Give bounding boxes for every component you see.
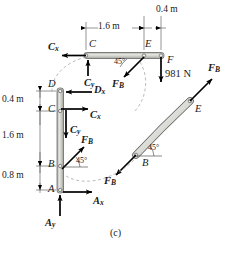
- free-body-diagram-figure: 1.6 m 0.4 m 0.4 m 1.6 m 0.8 m C E F D C …: [0, 0, 237, 253]
- force-label-Cy-vertical: Cy: [70, 125, 80, 136]
- dimension-label-1p6m-top: 1.6 m: [98, 22, 120, 32]
- curved-member-BE: [134, 99, 192, 157]
- dimension-label-0p4m-left: 0.4 m: [2, 95, 24, 105]
- dimension-label-1p6m-left: 1.6 m: [2, 131, 24, 141]
- force-label-Cy-top: Cy: [84, 78, 94, 89]
- force-label-FB-top: FB: [112, 79, 124, 90]
- left-vertical-member: [57, 88, 64, 193]
- figure-caption: (c): [110, 228, 121, 238]
- point-label-C-vertical: C: [48, 104, 55, 115]
- force-label-Cx-top: Cx: [48, 42, 59, 53]
- point-label-A: A: [48, 184, 54, 195]
- dimension-label-0p8m-left: 0.8 m: [2, 171, 24, 181]
- angle-label-45-vertical: 45°: [76, 157, 87, 165]
- force-label-Ax: Ax: [93, 196, 104, 207]
- point-label-F-top: F: [167, 55, 173, 66]
- force-label-FB-curve-E: FB: [208, 63, 220, 74]
- force-label-981N: 981 N: [165, 69, 191, 80]
- point-label-E-curve: E: [195, 104, 201, 115]
- force-arrow-FB-curve-E: [190, 79, 212, 101]
- force-label-FB-vertical: FB: [81, 135, 93, 146]
- force-label-Cx-vertical: Cx: [90, 110, 101, 121]
- dimension-label-0p4m-top: 0.4 m: [156, 5, 178, 15]
- point-label-B-vertical: B: [48, 159, 54, 170]
- force-label-Ay: Ay: [45, 218, 55, 229]
- angle-label-45-curve: 45°: [148, 144, 159, 152]
- force-label-Dx: Dx: [94, 85, 105, 96]
- point-label-C-top: C: [89, 39, 96, 50]
- point-label-E-top: E: [145, 39, 151, 50]
- point-label-D: D: [48, 79, 56, 90]
- diagram-canvas: [0, 0, 237, 253]
- angle-label-45-top: 45°: [114, 58, 125, 66]
- point-label-B-curve: B: [142, 158, 148, 169]
- force-label-FB-curve-B: FB: [104, 176, 116, 187]
